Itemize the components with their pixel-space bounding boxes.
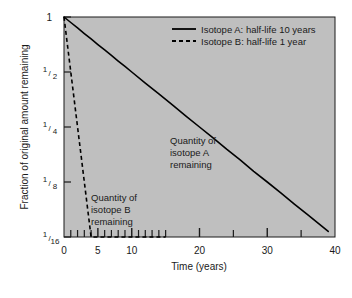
annotation-a-line3: remaining bbox=[170, 159, 212, 170]
x-tick-label: 30 bbox=[262, 245, 274, 256]
annotation-b-line1: Quantity of bbox=[91, 192, 137, 203]
svg-text:16: 16 bbox=[51, 237, 60, 246]
svg-text:/: / bbox=[48, 69, 51, 78]
chart-page: 11/21/41/81/16 0510203040 Isotope A: hal… bbox=[0, 0, 352, 298]
x-tick-label: 40 bbox=[329, 245, 341, 256]
isotope-decay-chart: 11/21/41/81/16 0510203040 Isotope A: hal… bbox=[0, 0, 352, 298]
svg-text:/: / bbox=[48, 124, 51, 133]
svg-text:2: 2 bbox=[53, 72, 58, 81]
y-tick-label: 1/16 bbox=[43, 230, 60, 246]
x-axis-title: Time (years) bbox=[171, 261, 227, 272]
y-tick-label: 1 bbox=[46, 12, 52, 23]
svg-text:4: 4 bbox=[53, 127, 58, 136]
x-tick-label: 10 bbox=[126, 245, 138, 256]
svg-text:8: 8 bbox=[53, 182, 58, 191]
y-tick-label: 1/4 bbox=[43, 120, 58, 136]
svg-text:/: / bbox=[48, 179, 51, 188]
y-axis-title: Fraction of original amount remaining bbox=[19, 44, 30, 209]
x-tick-label: 20 bbox=[194, 245, 206, 256]
svg-text:1: 1 bbox=[43, 120, 48, 129]
svg-text:1: 1 bbox=[43, 230, 48, 239]
annotation-b-line2: isotope B bbox=[91, 204, 131, 215]
svg-text:1: 1 bbox=[43, 65, 48, 74]
y-tick-label: 1/2 bbox=[43, 65, 58, 81]
annotation-a-line1: Quantity of bbox=[170, 135, 216, 146]
legend-label-isotope-a: Isotope A: half-life 10 years bbox=[201, 24, 316, 35]
legend-label-isotope-b: Isotope B: half-life 1 year bbox=[201, 36, 306, 47]
annotation-isotope-b: Quantity of isotope B remaining bbox=[91, 192, 137, 227]
x-tick-label: 5 bbox=[95, 245, 101, 256]
annotation-a-line2: isotope A bbox=[170, 147, 210, 158]
x-tick-label: 0 bbox=[61, 245, 67, 256]
y-tick-label: 1/8 bbox=[43, 175, 58, 191]
annotation-b-line3: remaining bbox=[91, 216, 133, 227]
svg-text:1: 1 bbox=[43, 175, 48, 184]
